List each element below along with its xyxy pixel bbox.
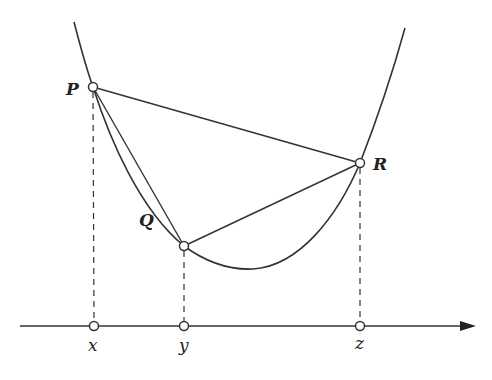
label-x: x <box>88 335 98 355</box>
convexity-diagram: P Q R x y z <box>0 0 492 380</box>
axis-arrowhead-icon <box>460 321 476 331</box>
chord-qr <box>184 163 360 246</box>
convex-curve <box>74 22 405 269</box>
axis-point-x <box>90 322 99 331</box>
point-q <box>180 242 189 251</box>
label-p: P <box>65 79 80 99</box>
chord-pr <box>93 87 360 163</box>
axis-point-y <box>180 322 189 331</box>
label-r: R <box>372 154 387 174</box>
point-r <box>356 159 365 168</box>
point-p <box>89 83 98 92</box>
label-z: z <box>354 333 365 353</box>
label-q: Q <box>139 210 154 230</box>
label-y: y <box>178 335 189 355</box>
axis-point-z <box>356 322 365 331</box>
projection-p <box>93 92 94 321</box>
